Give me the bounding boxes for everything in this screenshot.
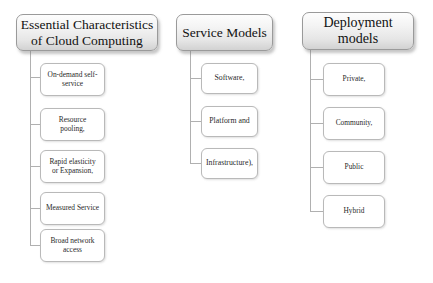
node-public[interactable]: Public bbox=[323, 151, 385, 184]
node-label: Broad network access bbox=[47, 237, 97, 254]
node-label: On-demand self- service bbox=[45, 71, 101, 88]
node-label: Hybrid bbox=[341, 207, 368, 216]
node-label: Deployment models bbox=[320, 15, 395, 46]
node-essential-characteristics-root[interactable]: Essential Characteristics of Cloud Compu… bbox=[16, 14, 158, 51]
node-label: Service Models bbox=[179, 25, 269, 40]
node-deployment-models-root[interactable]: Deployment models bbox=[302, 12, 414, 50]
node-label: Software, bbox=[211, 74, 247, 83]
node-label: Platform and bbox=[206, 117, 253, 126]
node-resource-pooling[interactable]: Resource pooling, bbox=[40, 108, 105, 141]
node-broad-network-access[interactable]: Broad network access bbox=[40, 229, 105, 262]
node-private[interactable]: Private, bbox=[323, 63, 385, 96]
node-label: Resource pooling, bbox=[56, 116, 90, 133]
node-label: Private, bbox=[340, 75, 369, 84]
node-community[interactable]: Community, bbox=[323, 107, 385, 140]
node-hybrid[interactable]: Hybrid bbox=[323, 195, 385, 228]
node-label: Measured Service bbox=[43, 204, 102, 213]
node-measured-service[interactable]: Measured Service bbox=[40, 192, 105, 225]
node-service-models-root[interactable]: Service Models bbox=[176, 14, 273, 51]
node-label: Public bbox=[342, 163, 367, 172]
node-label: Community, bbox=[333, 119, 376, 128]
node-label: Infrastructure), bbox=[203, 159, 256, 168]
node-label: Essential Characteristics of Cloud Compu… bbox=[18, 17, 156, 47]
node-software[interactable]: Software, bbox=[201, 63, 258, 94]
cloud-computing-diagram: Essential Characteristics of Cloud Compu… bbox=[0, 0, 433, 283]
node-on-demand-self-service[interactable]: On-demand self- service bbox=[40, 63, 105, 96]
node-rapid-elasticity-or-expansion[interactable]: Rapid elasticity or Expansion, bbox=[40, 150, 105, 183]
node-platform-and[interactable]: Platform and bbox=[201, 106, 258, 137]
node-infrastructure[interactable]: Infrastructure), bbox=[201, 148, 258, 179]
node-label: Rapid elasticity or Expansion, bbox=[46, 158, 98, 175]
